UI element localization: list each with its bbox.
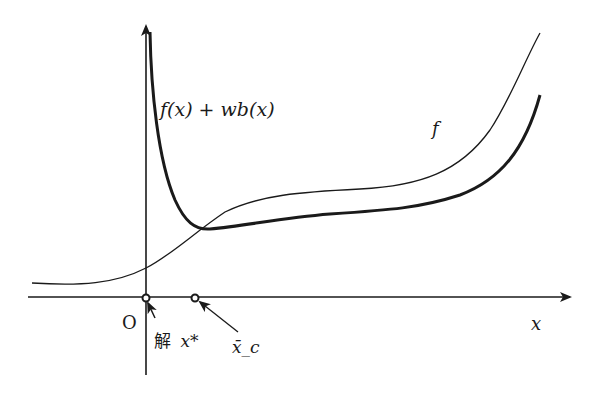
origin-label: O xyxy=(122,312,137,333)
barrier-min-point xyxy=(192,295,199,302)
solution-label: 解 x* xyxy=(154,327,199,352)
solution-point xyxy=(143,295,150,302)
curve-f-label: f xyxy=(432,118,439,139)
curve-barrier xyxy=(150,32,540,229)
diagram: f(x) + wb(x) f O x 解 x* x̄_c xyxy=(0,0,598,395)
solution-label-var: x* xyxy=(180,331,198,351)
solution-pointer-arrow xyxy=(148,303,155,318)
barrier-min-pointer-arrow xyxy=(200,302,238,332)
barrier-min-label: x̄_c xyxy=(232,337,260,357)
curve-f xyxy=(32,33,540,284)
diagram-canvas xyxy=(0,0,598,395)
solution-label-prefix: 解 xyxy=(154,331,171,351)
curve-barrier-label: f(x) + wb(x) xyxy=(160,98,275,120)
x-axis-label: x xyxy=(531,313,541,334)
